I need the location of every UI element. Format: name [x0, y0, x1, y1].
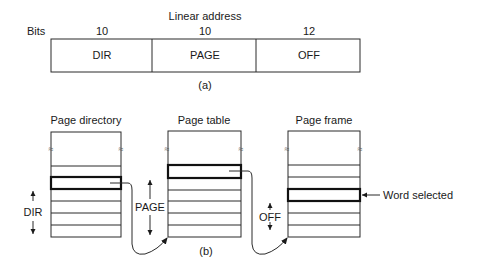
page-bits: 10	[199, 25, 211, 37]
page-directory-title: Page directory	[51, 114, 122, 126]
page-frame-title: Page frame	[296, 114, 353, 126]
break-icon: ≈	[285, 144, 290, 154]
break-icon: ≈	[358, 144, 363, 154]
page-index-label: PAGE	[135, 201, 165, 213]
break-icon: ≈	[239, 144, 244, 154]
break-icon: ≈	[49, 144, 54, 154]
dir-index-label: DIR	[24, 206, 43, 218]
off-bits: 12	[303, 25, 315, 37]
off-index-label: OFF	[259, 211, 281, 223]
caption-b: (b)	[199, 245, 212, 257]
break-icon: ≈	[165, 144, 170, 154]
page-directory: Page directory ≈ ≈ DIR	[24, 114, 124, 237]
page-field: PAGE	[190, 49, 220, 61]
page-table: Page table ≈ ≈ PAGE	[135, 114, 243, 237]
page-directory-box	[51, 132, 121, 237]
directory-to-table-arrow	[110, 183, 167, 254]
page-table-box	[168, 131, 241, 237]
dir-field: DIR	[93, 49, 112, 61]
page-frame-box	[288, 131, 360, 237]
linear-address-title: Linear address	[169, 10, 242, 22]
dir-bits: 10	[96, 25, 108, 37]
selected-word	[288, 189, 360, 201]
caption-a: (a)	[198, 79, 211, 91]
linear-address-figure: Linear address Bits 10 10 12 DIR PAGE OF…	[27, 10, 360, 91]
word-selected-label: Word selected	[383, 189, 453, 201]
break-icon: ≈	[119, 144, 124, 154]
off-field: OFF	[298, 49, 320, 61]
paging-diagram: Linear address Bits 10 10 12 DIR PAGE OF…	[0, 0, 478, 275]
bits-label: Bits	[27, 25, 46, 37]
page-table-title: Page table	[178, 114, 231, 126]
page-frame: Page frame ≈ ≈ OFF Word selected	[259, 114, 453, 237]
